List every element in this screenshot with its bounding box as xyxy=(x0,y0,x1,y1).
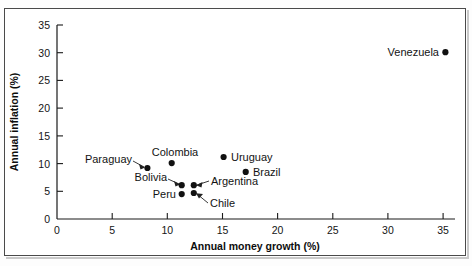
point-label-chile: Chile xyxy=(210,197,235,209)
data-point-colombia[interactable] xyxy=(169,160,175,166)
y-tick-label-35: 35 xyxy=(38,19,50,31)
y-tick-label-30: 30 xyxy=(38,47,50,59)
point-label-colombia: Colombia xyxy=(152,146,199,158)
x-tick-label-15: 15 xyxy=(217,224,229,236)
x-tick-label-5: 5 xyxy=(109,224,115,236)
point-label-bolivia: Bolivia xyxy=(135,171,168,183)
y-tick-label-5: 5 xyxy=(44,185,50,197)
scatter-plot-figure: 35 30 25 20 15 10 5 0 0 5 10 15 20 25 30… xyxy=(0,0,472,266)
point-label-uruguay: Uruguay xyxy=(231,151,273,163)
point-label-paraguay: Paraguay xyxy=(85,153,133,165)
data-point-peru[interactable] xyxy=(179,191,185,197)
y-tick-label-20: 20 xyxy=(38,102,50,114)
y-tick-label-10: 10 xyxy=(38,158,50,170)
data-point-bolivia[interactable] xyxy=(179,182,185,188)
x-tick-label-25: 25 xyxy=(327,224,339,236)
data-point-venezuela[interactable] xyxy=(442,49,448,55)
x-tick-label-35: 35 xyxy=(437,224,449,236)
point-label-venezuela: Venezuela xyxy=(388,46,440,58)
point-label-argentina: Argentina xyxy=(211,175,259,187)
data-point-chile[interactable] xyxy=(191,190,197,196)
data-point-uruguay[interactable] xyxy=(221,154,227,160)
point-label-peru: Peru xyxy=(153,188,176,200)
x-tick-label-20: 20 xyxy=(272,224,284,236)
x-tick-label-10: 10 xyxy=(161,224,173,236)
y-tick-label-15: 15 xyxy=(38,130,50,142)
x-tick-label-0: 0 xyxy=(54,224,60,236)
y-tick-label-0: 0 xyxy=(44,213,50,225)
x-axis-title: Annual money growth (%) xyxy=(190,240,320,252)
data-point-argentina[interactable] xyxy=(191,182,197,188)
y-tick-label-25: 25 xyxy=(38,74,50,86)
x-tick-label-30: 30 xyxy=(382,224,394,236)
y-axis-title: Annual inflation (%) xyxy=(8,73,20,172)
plot-canvas: 35 30 25 20 15 10 5 0 0 5 10 15 20 25 30… xyxy=(0,0,472,266)
